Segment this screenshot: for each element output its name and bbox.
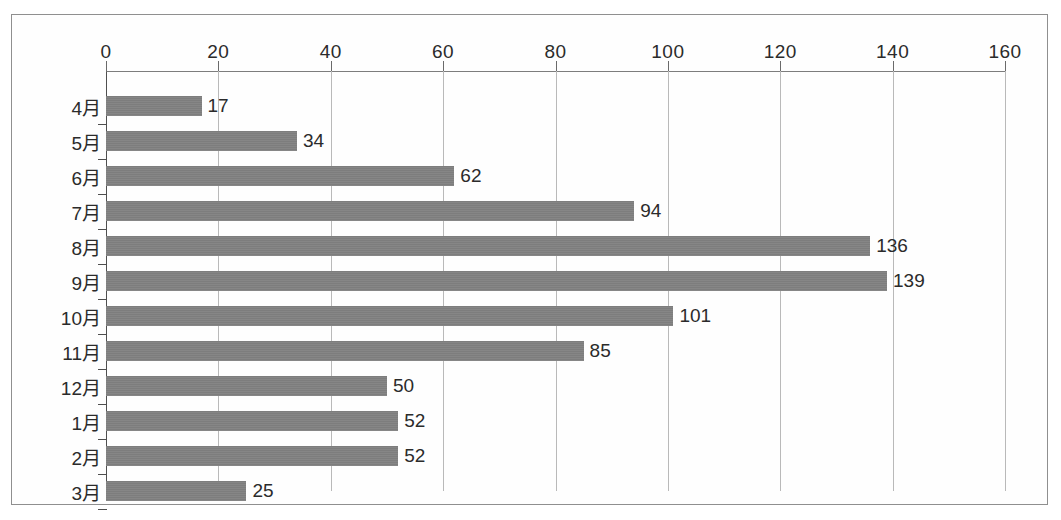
bar <box>106 481 246 501</box>
bar-value-label: 50 <box>393 375 414 397</box>
x-axis-tick-label: 20 <box>207 41 229 63</box>
y-axis-tick-mark <box>98 124 107 125</box>
bar <box>106 201 634 221</box>
category-label: 4月 <box>71 93 101 120</box>
x-gridline <box>1005 71 1006 491</box>
bar-value-label: 52 <box>404 410 425 432</box>
bar <box>106 131 297 151</box>
y-axis-tick-mark <box>98 299 107 300</box>
x-axis-tick-label: 100 <box>651 41 684 63</box>
bar-chart-plot-area: 020406080100120140160 4月5月6月7月8月9月10月11月… <box>12 15 1049 506</box>
y-axis-tick-mark <box>98 439 107 440</box>
y-axis-tick-mark <box>98 194 107 195</box>
x-axis-tick-label: 40 <box>320 41 342 63</box>
y-axis-tick-mark <box>98 404 107 405</box>
bar-value-label: 52 <box>404 445 425 467</box>
bar-value-label: 17 <box>208 95 229 117</box>
bar-value-label: 139 <box>893 270 925 292</box>
category-label: 5月 <box>71 128 101 155</box>
bar <box>106 271 887 291</box>
y-axis-tick-mark <box>98 229 107 230</box>
x-axis-tick-label: 80 <box>544 41 566 63</box>
y-axis-tick-mark <box>98 474 107 475</box>
category-label: 8月 <box>71 233 101 260</box>
bar <box>106 236 870 256</box>
bar <box>106 376 387 396</box>
y-axis-tick-mark <box>98 264 107 265</box>
bar <box>106 341 584 361</box>
category-label: 10月 <box>61 303 101 330</box>
x-axis-tick-mark <box>106 61 107 72</box>
bar <box>106 166 454 186</box>
bar-value-label: 85 <box>590 340 611 362</box>
bar-value-label: 101 <box>679 305 711 327</box>
category-label: 2月 <box>71 443 101 470</box>
y-axis-tick-mark <box>98 369 107 370</box>
category-label: 6月 <box>71 163 101 190</box>
bar-value-label: 62 <box>460 165 481 187</box>
x-axis-tick-label: 60 <box>432 41 454 63</box>
bar-value-label: 94 <box>640 200 661 222</box>
y-axis-tick-mark <box>98 509 107 510</box>
x-axis-tick-label: 120 <box>764 41 797 63</box>
bar <box>106 96 202 116</box>
category-label: 11月 <box>62 338 101 365</box>
bar <box>106 306 673 326</box>
bar-value-label: 25 <box>252 480 273 502</box>
bar <box>106 411 398 431</box>
y-axis-tick-mark <box>98 159 107 160</box>
category-label: 12月 <box>61 373 101 400</box>
x-axis-tick-label: 140 <box>876 41 909 63</box>
category-label: 7月 <box>71 198 101 225</box>
category-label: 1月 <box>71 408 101 435</box>
bar-value-label: 34 <box>303 130 324 152</box>
bar <box>106 446 398 466</box>
category-label: 3月 <box>71 478 101 505</box>
x-axis-tick-label: 0 <box>100 41 111 63</box>
chart-border-frame: 020406080100120140160 4月5月6月7月8月9月10月11月… <box>11 14 1048 505</box>
y-axis-tick-mark <box>98 334 107 335</box>
bar-value-label: 136 <box>876 235 908 257</box>
x-axis-tick-label: 160 <box>988 41 1021 63</box>
category-label: 9月 <box>71 268 101 295</box>
